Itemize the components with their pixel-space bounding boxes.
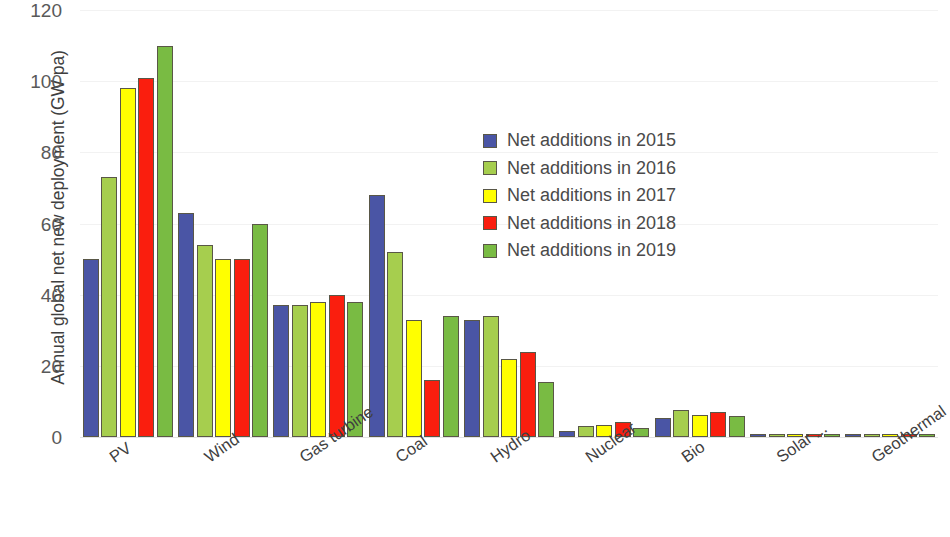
bar — [369, 195, 385, 437]
y-axis-tick-label: 60 — [16, 215, 62, 234]
legend-item: Net additions in 2016 — [483, 155, 723, 183]
legend-item: Net additions in 2018 — [483, 210, 723, 238]
legend-label: Net additions in 2016 — [507, 158, 676, 179]
bar-group — [845, 10, 935, 437]
bar — [769, 434, 785, 437]
legend-swatch-icon — [483, 134, 497, 148]
y-axis-tick-label: 80 — [16, 143, 62, 162]
bar — [252, 224, 268, 438]
bar-group — [273, 10, 363, 437]
bar — [292, 305, 308, 437]
x-axis-tick-label: Bio — [678, 437, 708, 466]
bar — [424, 380, 440, 437]
bar-group — [83, 10, 173, 437]
legend-swatch-icon — [483, 189, 497, 203]
legend-label: Net additions in 2017 — [507, 185, 676, 206]
bar — [178, 213, 194, 437]
bar — [329, 295, 345, 437]
y-axis-tick-label: 100 — [16, 72, 62, 91]
legend-label: Net additions in 2019 — [507, 240, 676, 261]
bar — [138, 78, 154, 437]
bar-group — [750, 10, 840, 437]
bar — [845, 434, 861, 437]
bar — [157, 46, 173, 437]
bar — [729, 416, 745, 437]
bar — [120, 88, 136, 437]
legend-item: Net additions in 2015 — [483, 127, 723, 155]
chart-legend: Net additions in 2015Net additions in 20… — [483, 127, 723, 265]
bar — [559, 431, 575, 437]
y-axis-tick-labels: 020406080100120 — [12, 0, 62, 537]
bar — [406, 320, 422, 437]
y-axis-tick-label: 20 — [16, 357, 62, 376]
bar — [273, 305, 289, 437]
bar — [578, 426, 594, 437]
bar — [215, 259, 231, 437]
bar — [443, 316, 459, 437]
bar — [864, 434, 880, 437]
y-axis-tick-label: 120 — [16, 1, 62, 20]
bar — [501, 359, 517, 437]
bar-group — [369, 10, 459, 437]
bar — [538, 382, 554, 437]
y-axis-tick-label: 0 — [16, 428, 62, 447]
legend-label: Net additions in 2018 — [507, 213, 676, 234]
legend-swatch-icon — [483, 244, 497, 258]
bar — [464, 320, 480, 437]
bar — [101, 177, 117, 437]
bar — [83, 259, 99, 437]
bar — [750, 434, 766, 437]
bar — [197, 245, 213, 437]
bar — [234, 259, 250, 437]
legend-item: Net additions in 2017 — [483, 182, 723, 210]
legend-swatch-icon — [483, 161, 497, 175]
bar — [483, 316, 499, 437]
bar — [655, 418, 671, 437]
bar-group — [178, 10, 268, 437]
legend-swatch-icon — [483, 216, 497, 230]
bar — [673, 410, 689, 437]
bar — [692, 415, 708, 437]
y-axis-tick-label: 40 — [16, 286, 62, 305]
legend-item: Net additions in 2019 — [483, 237, 723, 265]
bar — [710, 412, 726, 437]
bar — [387, 252, 403, 437]
legend-label: Net additions in 2015 — [507, 130, 676, 151]
bar — [520, 352, 536, 437]
x-axis-tick-label: PV — [106, 438, 135, 466]
bar — [310, 302, 326, 437]
